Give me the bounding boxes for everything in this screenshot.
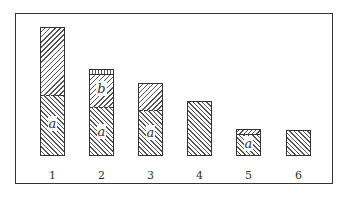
bar-2: b a — [89, 69, 114, 156]
x-label-1: 1 — [40, 169, 65, 182]
x-label-2: 2 — [89, 169, 114, 182]
x-label-3: 3 — [138, 169, 163, 182]
bar-1: a — [40, 27, 65, 156]
bar-6 — [286, 130, 311, 156]
x-label-5: 5 — [236, 169, 261, 182]
bar-4 — [187, 101, 212, 156]
bar-1-segment-b — [41, 28, 64, 96]
bar-2-label-a: a — [90, 125, 113, 139]
bar-5: a — [236, 129, 261, 156]
bar-3: a — [138, 83, 163, 156]
bar-4-segment-a — [188, 102, 211, 155]
bar-3-segment-b — [139, 84, 162, 111]
bar-2-label-b: b — [90, 82, 113, 96]
x-label-4: 4 — [187, 169, 212, 182]
bar-1-label-a: a — [41, 117, 64, 131]
bar-6-segment-a — [287, 131, 310, 155]
bar-3-label-a: a — [139, 126, 162, 140]
x-label-6: 6 — [286, 169, 311, 182]
bar-5-label-a: a — [237, 137, 260, 151]
